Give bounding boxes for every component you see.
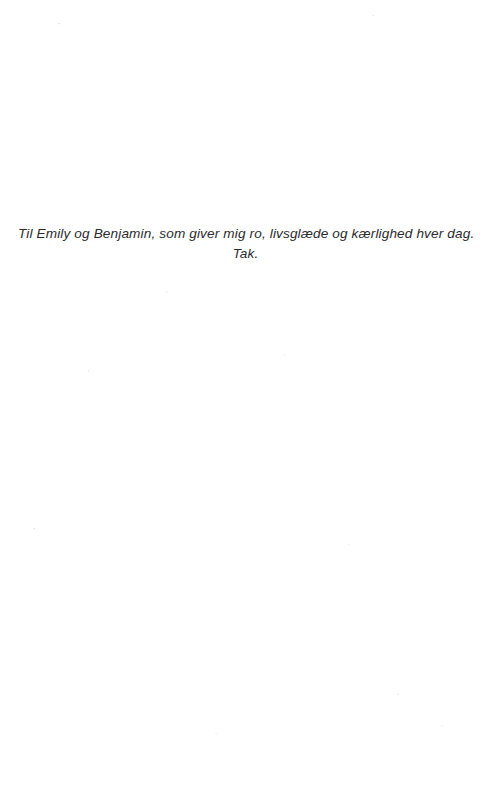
scan-noise-texture <box>0 0 491 789</box>
dedication-line-2: Tak. <box>18 244 473 264</box>
dedication-text-block: Til Emily og Benjamin, som giver mig ro,… <box>0 224 491 263</box>
dedication-line-1: Til Emily og Benjamin, som giver mig ro,… <box>18 224 473 244</box>
document-page: Til Emily og Benjamin, som giver mig ro,… <box>0 0 491 789</box>
